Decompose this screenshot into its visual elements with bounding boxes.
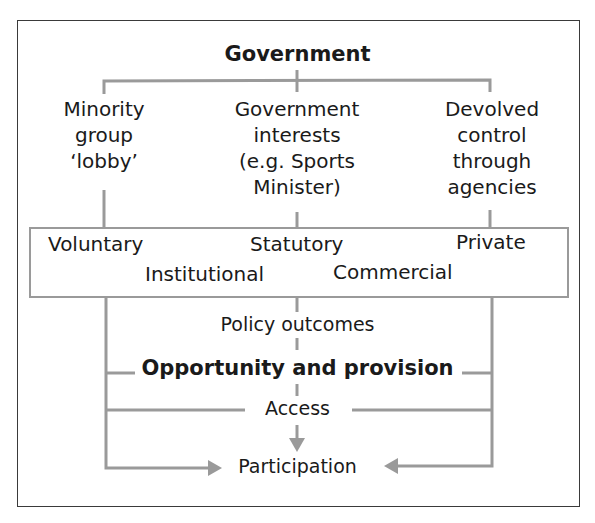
flow-policy-outcomes: Policy outcomes [0, 313, 595, 336]
branch-government-interests: Government interests (e.g. Sports Minist… [217, 96, 377, 200]
branch-line: ‘lobby’ [44, 148, 164, 174]
arrow-down-icon [289, 438, 305, 452]
flow-participation: Participation [0, 455, 595, 478]
flow-opportunity-provision: Opportunity and provision [0, 356, 595, 381]
branch-line: control [432, 122, 552, 148]
branch-line: (e.g. Sports [217, 148, 377, 174]
sector-private: Private [456, 230, 526, 254]
branch-devolved-control: Devolved control through agencies [432, 96, 552, 200]
connector-lines [0, 0, 595, 523]
branch-line: group [44, 122, 164, 148]
branch-minority-lobby: Minority group ‘lobby’ [44, 96, 164, 174]
branch-line: Minister) [217, 174, 377, 200]
sector-statutory: Statutory [250, 232, 343, 256]
branch-line: interests [217, 122, 377, 148]
flow-access: Access [0, 397, 595, 420]
root-node-government: Government [0, 42, 595, 67]
branch-line: Minority [44, 96, 164, 122]
sector-commercial: Commercial [333, 260, 453, 284]
sector-voluntary: Voluntary [48, 232, 143, 256]
branch-line: agencies [432, 174, 552, 200]
branch-line: Devolved [432, 96, 552, 122]
branch-line: through [432, 148, 552, 174]
flow-opportunity-label: Opportunity and provision [135, 356, 459, 380]
branch-line: Government [217, 96, 377, 122]
sector-institutional: Institutional [145, 262, 264, 286]
